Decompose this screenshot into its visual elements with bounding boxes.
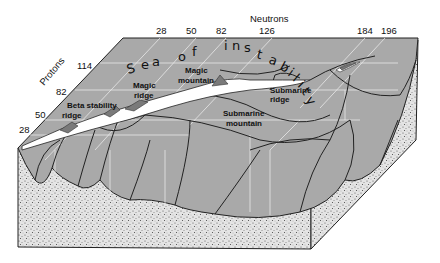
submarine-ridge-label: Submarine [270,86,312,95]
neutron-tick-126: 126 [259,25,275,36]
nuclear-stability-diagram: Neutrons 28 50 82 126 184 196 Protons 11… [0,0,440,263]
neutron-tick-50: 50 [186,25,197,36]
beta-stability-ridge-label: Beta stability [67,101,117,110]
beta-stability-ridge-label-2: ridge [62,111,82,120]
submarine-mountain-label: Submarine [223,109,265,118]
proton-tick-50: 50 [35,109,46,120]
svg-text:n: n [232,38,240,53]
submarine-ridge-label-2: ridge [270,95,290,104]
neutron-tick-28: 28 [156,25,167,36]
protons-axis-label: Protons [37,55,67,87]
proton-tick-28: 28 [19,124,30,135]
proton-tick-82: 82 [56,86,67,97]
magic-mountain-label-2: mountain [178,76,214,85]
svg-text:s: s [244,40,251,55]
submarine-mountain-label-2: mountain [226,119,262,128]
neutrons-axis-label: Neutrons [250,13,289,24]
svg-text:i: i [224,38,228,53]
svg-text:o: o [178,49,186,64]
neutron-tick-82: 82 [216,25,227,36]
magic-ridge-label-2: ridge [134,91,154,100]
svg-text:e: e [141,57,149,72]
neutron-tick-196: 196 [381,25,397,36]
neutron-tick-184: 184 [357,25,373,36]
proton-tick-114: 114 [77,60,92,71]
svg-text:f: f [192,44,197,59]
magic-mountain-label: Magic [185,66,208,75]
svg-text:a: a [152,54,160,69]
magic-ridge-label: Magic [133,81,156,90]
